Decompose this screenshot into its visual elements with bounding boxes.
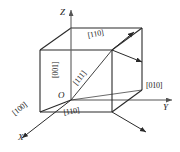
x-axis-label: X	[18, 133, 23, 142]
direction-arrows	[112, 32, 146, 132]
arrow-110-right	[112, 50, 142, 62]
y-axis-label: Y	[163, 103, 168, 112]
origin-label: O	[58, 91, 64, 100]
z-axis-label: Z	[60, 8, 65, 17]
arrow-110-up	[112, 32, 134, 50]
direction-label-010: [010]	[146, 82, 162, 90]
x-axis-line	[22, 100, 71, 138]
cube-edge-top-back-left	[40, 28, 71, 50]
arrow-bottom-right	[112, 112, 146, 132]
direction-label-001: [001]	[52, 62, 60, 78]
cube-diagram-svg	[0, 0, 180, 152]
crystal-cube-figure: Z X Y O [010] [100] [001] [111] [110] [1…	[0, 0, 180, 152]
cube-edge-bottom-back	[71, 90, 142, 100]
